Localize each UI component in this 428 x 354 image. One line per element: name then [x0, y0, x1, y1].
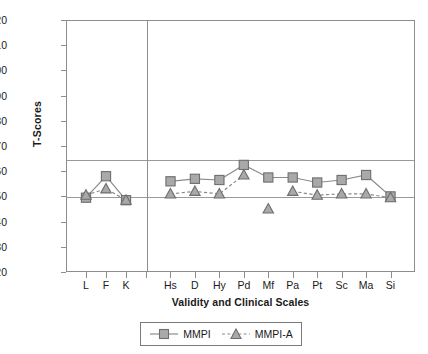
- chart-root: T-Scores 1201101009080706050403020 LFKHs…: [0, 0, 428, 354]
- y-tick-label-100: 100: [0, 65, 7, 75]
- y-tick-label-70: 70: [0, 141, 7, 151]
- chart-legend: MMPI MMPI-A: [140, 322, 302, 346]
- legend-item-mmpi[interactable]: MMPI: [149, 328, 210, 340]
- y-axis-title: T-Scores: [31, 84, 43, 164]
- legend-label-mmpi: MMPI: [183, 328, 210, 340]
- y-tick-label-110: 110: [0, 40, 7, 50]
- y-tick-label-120: 120: [0, 15, 7, 25]
- x-tick-mark-Si: [391, 272, 392, 278]
- y-tick-label-60: 60: [0, 166, 7, 176]
- x-tick-mark-Hy: [219, 272, 220, 278]
- triangle-marker-icon: [221, 328, 251, 340]
- reference-line-65: [67, 160, 414, 161]
- reference-line-50: [67, 197, 414, 198]
- x-tick-mark-Hs: [170, 272, 171, 278]
- y-tick-label-90: 90: [0, 91, 7, 101]
- x-tick-mark-Sc: [342, 272, 343, 278]
- y-tick-mark-20: [61, 272, 66, 273]
- legend-label-mmpi-a: MMPI-A: [255, 328, 293, 340]
- x-tick-mark-divider: [146, 272, 147, 278]
- x-tick-mark-Pd: [244, 272, 245, 278]
- x-tick-mark-Mf: [268, 272, 269, 278]
- x-tick-mark-Pa: [293, 272, 294, 278]
- validity-clinical-divider: [147, 21, 148, 271]
- y-tick-label-30: 30: [0, 242, 7, 252]
- plot-area: [66, 20, 415, 272]
- x-tick-mark-Ma: [366, 272, 367, 278]
- x-tick-mark-L: [86, 272, 87, 278]
- legend-item-mmpi-a[interactable]: MMPI-A: [221, 328, 293, 340]
- y-tick-label-50: 50: [0, 191, 7, 201]
- x-tick-label-Si: Si: [376, 279, 406, 291]
- x-axis-title: Validity and Clinical Scales: [66, 296, 415, 308]
- x-tick-mark-D: [195, 272, 196, 278]
- y-tick-label-40: 40: [0, 217, 7, 227]
- x-tick-mark-K: [126, 272, 127, 278]
- square-marker-icon: [149, 328, 179, 340]
- x-tick-mark-F: [106, 272, 107, 278]
- x-tick-mark-Pt: [317, 272, 318, 278]
- y-tick-label-80: 80: [0, 116, 7, 126]
- x-tick-label-K: K: [111, 279, 141, 291]
- y-tick-label-20: 20: [0, 267, 7, 277]
